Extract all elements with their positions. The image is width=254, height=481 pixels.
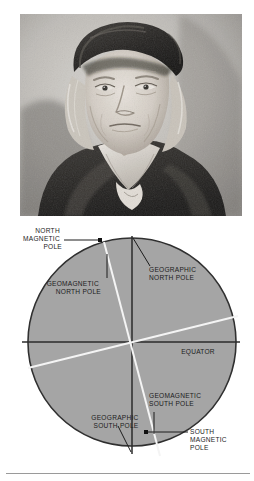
- geographic-north-pole-label: GEOGRAPHIC NORTH POLE: [149, 266, 198, 281]
- geographic-south-pole-label: GEOGRAPHIC SOUTH POLE: [91, 414, 140, 429]
- pole-diagram: NORTH MAGNETIC POLE GEOMAGNETIC NORTH PO…: [0, 216, 254, 474]
- geomagnetic-north-pole-label: GEOMAGNETIC NORTH POLE: [47, 280, 102, 295]
- south-magnetic-pole-label: SOUTH MAGNETIC POLE: [190, 428, 229, 451]
- north-magnetic-pole-marker: [98, 238, 102, 242]
- pole-diagram-svg: NORTH MAGNETIC POLE GEOMAGNETIC NORTH PO…: [0, 216, 254, 474]
- bottom-divider: [6, 473, 250, 474]
- equator-label: EQUATOR: [181, 348, 215, 356]
- page-root: NORTH MAGNETIC POLE GEOMAGNETIC NORTH PO…: [0, 0, 254, 481]
- portrait-image: [20, 14, 242, 216]
- north-magnetic-pole-label: NORTH MAGNETIC POLE: [23, 227, 62, 250]
- portrait-photo: [20, 14, 242, 216]
- south-magnetic-pole-marker: [144, 430, 148, 434]
